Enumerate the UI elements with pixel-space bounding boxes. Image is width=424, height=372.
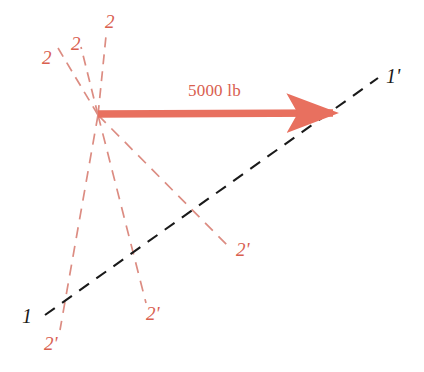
ray-label-2-b: 2 [71, 34, 81, 53]
ray-label-2prime-b: 2' [146, 304, 160, 323]
ray-label-2-a: 2 [42, 48, 52, 67]
ray-2prime-c [98, 115, 230, 248]
ray-label-2prime-c: 2' [236, 240, 250, 259]
ray-2prime-a [60, 115, 98, 330]
line-label-1-prime: 1' [386, 66, 400, 86]
force-arrow [98, 113, 333, 114]
force-diagram: 2 2 2 2' 2' 2' 1 1' 5000 lb [0, 0, 424, 372]
ray-2-b [81, 47, 98, 115]
diagram-canvas [0, 0, 424, 372]
ray-2-a [58, 48, 98, 115]
ray-2-c [98, 36, 106, 115]
line-label-1: 1 [22, 306, 32, 326]
force-magnitude-label: 5000 lb [188, 82, 241, 99]
ray-2prime-b [98, 115, 146, 303]
ray-label-2prime-a: 2' [44, 334, 58, 353]
ray-label-2-c: 2 [105, 12, 115, 31]
